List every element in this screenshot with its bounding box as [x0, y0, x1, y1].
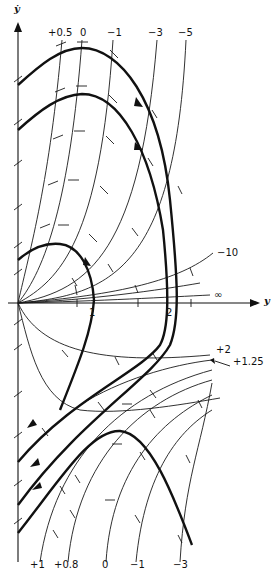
isocline-plus-1.25 [80, 360, 212, 405]
label-bottom-plus-1: +1 [30, 560, 45, 570]
label-bottom-minus-1: −1 [130, 560, 145, 570]
infinity-label: ∞ [214, 290, 222, 300]
isoclines-lower [18, 303, 220, 562]
phase-plane-diagram: ẏ y 1 2 ∞ +0.5 0 −1 −3 −5 −10 +2 +1.25 +… [0, 0, 277, 576]
y-dot-axis-label: ẏ [14, 4, 20, 14]
vertical-axis-arrow-icon [14, 22, 22, 32]
isocline-b [18, 295, 210, 303]
label-top-plus-0.5: +0.5 [48, 28, 72, 38]
diagram-canvas [0, 0, 277, 576]
label-top-minus-5: −5 [178, 28, 193, 38]
y-axis-label: y [264, 296, 270, 306]
label-minus-10: −10 [217, 248, 238, 258]
trajectories [18, 48, 230, 545]
label-bottom-0: 0 [102, 560, 108, 570]
isocline-lower-minus-1 [136, 410, 212, 562]
label-bottom-plus-0.8: +0.8 [54, 560, 78, 570]
label-top-minus-1: −1 [107, 28, 122, 38]
tick-label-2: 2 [166, 308, 172, 318]
arrow-icon [30, 458, 40, 467]
trajectory-lower [18, 431, 192, 545]
isocline-minus-5 [18, 40, 186, 303]
horizontal-axis-arrow-icon [250, 299, 260, 307]
label-top-0: 0 [80, 28, 86, 38]
trajectory-middle [18, 94, 167, 462]
isocline-lower-0 [106, 395, 212, 562]
isocline-lower-minus-3 [180, 383, 212, 562]
label-top-minus-3: −3 [148, 28, 163, 38]
arrow-icon [134, 97, 143, 107]
tick-label-1: 1 [89, 308, 95, 318]
isoclines-upper [18, 40, 213, 303]
label-plus-2: +2 [216, 345, 231, 355]
isocline-minus-1 [18, 40, 113, 303]
label-bottom-minus-3: −3 [173, 560, 188, 570]
arrow-icon [83, 257, 91, 266]
isocline-plus-2 [18, 303, 210, 358]
isocline-plus-1 [40, 370, 212, 562]
arrow-icon [27, 419, 37, 428]
isocline-lower-loop [18, 303, 220, 411]
trajectory-inner [18, 244, 94, 410]
label-plus-1.25: +1.25 [233, 357, 264, 367]
